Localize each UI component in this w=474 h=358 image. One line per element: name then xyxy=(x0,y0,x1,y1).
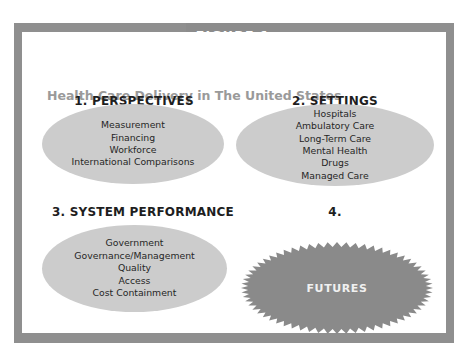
list-item: Quality xyxy=(118,262,151,274)
futures-label: FUTURES xyxy=(240,241,434,335)
list-item: Long-Term Care xyxy=(299,133,371,145)
list-item: Government xyxy=(106,237,164,249)
ellipse-system-performance: Government Governance/Management Quality… xyxy=(42,225,227,312)
list-item: Cost Containment xyxy=(93,287,177,299)
starburst-futures: FUTURES xyxy=(240,241,434,335)
list-item: Mental Health xyxy=(302,145,367,157)
list-item: Measurement xyxy=(101,119,165,131)
figure-body: Health Care Delivery in The United State… xyxy=(22,32,446,333)
list-item: Hospitals xyxy=(314,108,357,120)
section-title-futures: 4. xyxy=(315,205,355,219)
section-title-system-performance: 3. SYSTEM PERFORMANCE xyxy=(52,205,217,219)
list-item: International Comparisons xyxy=(72,156,195,168)
list-item: Workforce xyxy=(110,144,157,156)
list-item: Financing xyxy=(111,132,155,144)
list-item: Ambulatory Care xyxy=(296,120,375,132)
ellipse-perspectives: Measurement Financing Workforce Internat… xyxy=(42,104,224,184)
list-item: Governance/Management xyxy=(74,250,194,262)
list-item: Drugs xyxy=(321,157,349,169)
ellipse-settings: Hospitals Ambulatory Care Long-Term Care… xyxy=(236,104,434,186)
figure-frame: FIGURE 1 Health Care Delivery in The Uni… xyxy=(14,23,454,343)
list-item: Managed Care xyxy=(301,170,368,182)
list-item: Access xyxy=(119,275,151,287)
